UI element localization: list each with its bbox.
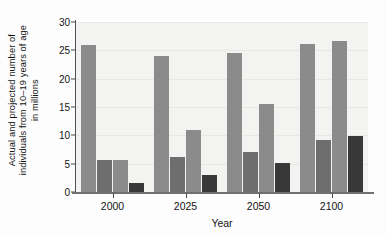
bar	[348, 136, 364, 192]
bar	[300, 44, 316, 192]
bar	[202, 175, 218, 192]
y-axis-tick-label: 5	[64, 158, 70, 169]
y-axis-line	[75, 20, 76, 194]
y-axis-title-line-1: Actual and projected number of	[7, 25, 18, 175]
bar	[316, 140, 332, 192]
y-axis-title-line-2: individuals from 10–19 years of age	[18, 25, 29, 175]
y-axis-tick-label: 10	[59, 130, 70, 141]
x-axis-tick-label: 2100	[320, 200, 343, 212]
bar	[97, 160, 113, 192]
y-axis-title-wrapper: Actual and projected number of individua…	[0, 0, 48, 200]
y-axis-tick-label: 0	[64, 187, 70, 198]
y-axis-tick-labels: 051015202530	[48, 0, 76, 236]
y-axis-tick-label: 15	[59, 102, 70, 113]
y-axis-tick-label: 25	[59, 45, 70, 56]
bar	[275, 163, 291, 192]
bar	[186, 130, 202, 192]
gridline	[76, 22, 368, 23]
gridline	[76, 107, 368, 108]
y-axis-tick-label: 20	[59, 73, 70, 84]
bar	[129, 183, 145, 192]
x-axis-title: Year	[76, 217, 368, 229]
y-axis-title-line-3: in millions	[30, 25, 41, 175]
bar	[154, 56, 170, 192]
x-axis-tick-mark	[259, 193, 260, 198]
bar	[227, 53, 243, 192]
bar	[243, 152, 259, 192]
x-axis-tick-mark	[113, 193, 114, 198]
bar	[170, 157, 186, 192]
x-axis-tick-label: 2025	[174, 200, 197, 212]
x-axis-tick-mark	[332, 193, 333, 198]
x-axis-tick-label: 2000	[101, 200, 124, 212]
gridline	[76, 79, 368, 80]
gridline	[76, 50, 368, 51]
chart-figure: Actual and projected number of individua…	[0, 0, 386, 236]
y-axis-tick-label: 30	[59, 17, 70, 28]
plot-area	[76, 22, 368, 192]
bar	[332, 41, 348, 192]
bar	[259, 104, 275, 192]
bar	[81, 45, 97, 192]
bar	[113, 160, 129, 192]
gridline	[76, 135, 368, 136]
x-axis-line	[72, 192, 374, 194]
x-axis-tick-mark	[186, 193, 187, 198]
y-axis-title: Actual and projected number of individua…	[7, 25, 41, 175]
x-axis-tick-label: 2050	[247, 200, 270, 212]
